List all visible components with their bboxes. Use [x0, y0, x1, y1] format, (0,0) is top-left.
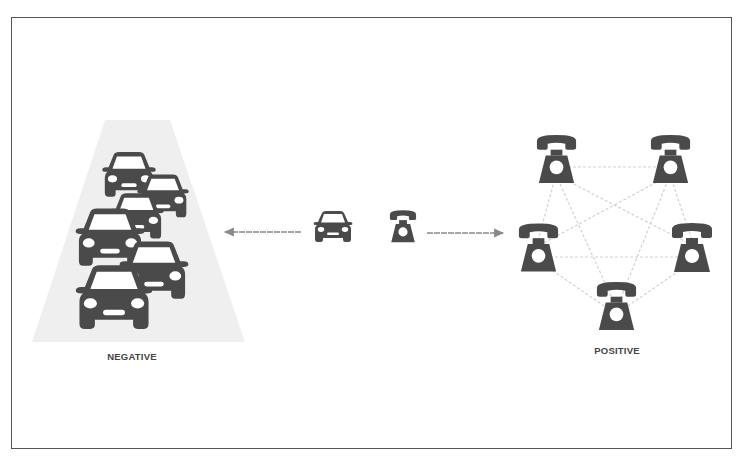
diagram-canvas: [0, 0, 745, 465]
positive-label: POSITIVE: [594, 345, 639, 356]
car-icon: [314, 211, 353, 242]
telephone-icon: [537, 135, 576, 183]
telephone-icon: [672, 223, 712, 272]
telephone-icon: [519, 224, 558, 272]
center-items: [225, 210, 503, 242]
negative-label: NEGATIVE: [107, 351, 156, 362]
telephone-icon: [597, 282, 636, 330]
telephone-icon: [390, 210, 416, 242]
negative-cluster: [32, 120, 245, 342]
telephone-icon: [651, 135, 690, 183]
positive-network: [519, 135, 712, 330]
